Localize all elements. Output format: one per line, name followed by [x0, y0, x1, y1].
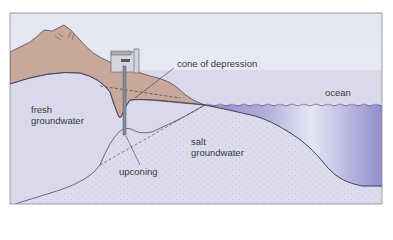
label-cone-of-depression: cone of depression [177, 58, 257, 69]
label-salt-line2: groundwater [191, 147, 244, 158]
label-fresh-line2: groundwater [31, 115, 84, 126]
label-salt-groundwater: salt groundwater [191, 136, 244, 158]
label-ocean: ocean [325, 87, 351, 98]
label-upconing: upconing [119, 166, 158, 177]
label-fresh-line1: fresh [31, 104, 84, 115]
label-salt-line1: salt [191, 136, 244, 147]
pumping-well [123, 66, 126, 135]
label-fresh-groundwater: fresh groundwater [31, 104, 84, 126]
